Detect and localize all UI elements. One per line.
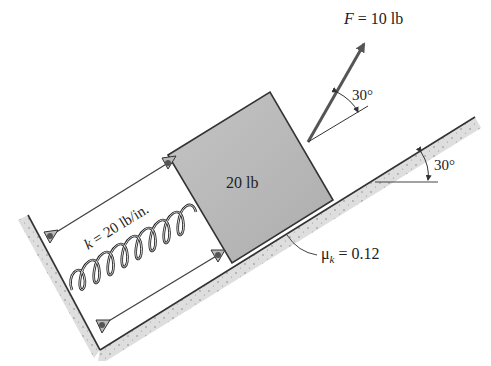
diagram-canvas: 20 lb k = 20 lb/in. 30° F: [0, 0, 491, 366]
block: 20 lb: [168, 92, 333, 263]
friction-label: μk = 0.12: [321, 245, 380, 265]
anchor-block-lower: [211, 250, 225, 262]
force-label: F = 10 lb: [343, 10, 403, 27]
incline-angle-label: 30°: [434, 157, 455, 173]
force-symbol: F: [343, 10, 354, 27]
friction-symbol: μ: [321, 245, 330, 263]
anchor-wall-lower: [96, 320, 110, 333]
applied-force: 30° F = 10 lb: [308, 10, 403, 142]
force-value: 10 lb: [371, 10, 403, 27]
force-equals: =: [354, 10, 371, 27]
block-weight-label: 20 lb: [226, 174, 258, 191]
anchor-wall-upper: [44, 230, 58, 243]
friction-value: 0.12: [352, 245, 380, 262]
spring-constant-value: 20 lb/in.: [100, 201, 151, 241]
force-angle-label: 30°: [352, 87, 373, 103]
friction-equals: =: [334, 245, 351, 262]
